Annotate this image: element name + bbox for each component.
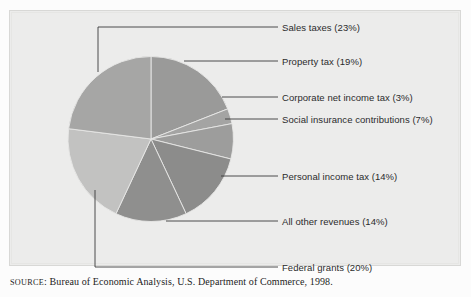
source-note: SOURCE: Bureau of Economic Analysis, U.S… bbox=[10, 276, 333, 287]
source-note-prefix: SOURCE bbox=[10, 278, 44, 287]
callout-label-sales-taxes: Sales taxes (23%) bbox=[282, 22, 360, 33]
pie-slices-group bbox=[68, 56, 233, 221]
callout-label-property-tax: Property tax (19%) bbox=[282, 56, 362, 67]
callout-label-social-insurance-contributions: Social insurance contributions (7%) bbox=[282, 114, 433, 125]
callout-label-personal-income-tax: Personal income tax (14%) bbox=[282, 171, 397, 182]
figure-container: Sales taxes (23%) Property tax (19%) Cor… bbox=[0, 0, 471, 297]
pie-chart-graphic bbox=[0, 0, 471, 297]
source-note-text: Bureau of Economic Analysis, U.S. Depart… bbox=[50, 276, 333, 287]
pie-slice-sales-taxes[interactable] bbox=[69, 56, 151, 139]
callout-label-corporate-net-income-tax: Corporate net income tax (3%) bbox=[282, 92, 413, 103]
callout-label-all-other-revenues: All other revenues (14%) bbox=[282, 216, 388, 227]
callout-label-federal-grants: Federal grants (20%) bbox=[282, 262, 372, 273]
